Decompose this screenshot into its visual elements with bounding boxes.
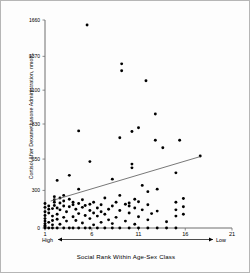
- data-point: [103, 227, 106, 230]
- data-point: [174, 171, 177, 174]
- data-point: [84, 204, 87, 207]
- data-point: [62, 194, 65, 197]
- data-points: [44, 24, 202, 230]
- data-point: [96, 207, 99, 210]
- axes: [45, 20, 232, 228]
- data-point: [115, 201, 118, 204]
- data-point: [77, 129, 80, 132]
- data-point: [84, 227, 87, 230]
- data-point: [72, 215, 75, 218]
- data-point: [141, 208, 144, 211]
- data-point: [68, 205, 71, 208]
- data-point: [133, 223, 136, 226]
- data-point: [62, 227, 65, 230]
- data-point: [68, 227, 71, 230]
- data-point: [146, 218, 149, 221]
- data-point: [74, 208, 77, 211]
- data-point: [56, 179, 59, 182]
- data-point: [96, 227, 99, 230]
- data-point: [182, 197, 185, 200]
- data-point: [137, 227, 140, 230]
- data-point: [62, 216, 65, 219]
- data-point: [88, 217, 91, 220]
- y-tick-label: 300: [14, 187, 40, 193]
- data-point: [47, 227, 50, 230]
- data-point: [156, 188, 159, 191]
- data-point: [56, 207, 59, 210]
- scatter-chart: Cortisol After Dexamethasone Administrat…: [1, 1, 250, 273]
- y-tick-label: 1370: [14, 53, 40, 59]
- data-point: [81, 222, 84, 225]
- data-point: [146, 227, 149, 230]
- figure-page: Cortisol After Dexamethasone Administrat…: [0, 0, 250, 273]
- data-point: [182, 205, 185, 208]
- data-point: [51, 223, 54, 226]
- data-point: [100, 221, 103, 224]
- data-point: [137, 215, 140, 218]
- data-point: [47, 205, 50, 208]
- data-point: [156, 210, 159, 213]
- data-point: [174, 208, 177, 211]
- data-point: [53, 201, 56, 204]
- data-point: [154, 113, 157, 116]
- data-point: [88, 203, 91, 206]
- y-axis-title: Cortisol After Dexamethasone Administrat…: [28, 16, 34, 216]
- data-point: [44, 206, 47, 209]
- data-point: [59, 223, 62, 226]
- data-point: [56, 218, 59, 221]
- data-point: [111, 205, 114, 208]
- axis-endcap-low: Low: [216, 237, 226, 243]
- data-point: [131, 163, 134, 166]
- data-point: [88, 160, 91, 163]
- data-point: [120, 62, 123, 65]
- x-tick-label: 6: [82, 231, 102, 237]
- data-point: [77, 202, 80, 205]
- data-point: [103, 196, 106, 199]
- data-point: [111, 178, 114, 181]
- data-point: [174, 201, 177, 204]
- data-point: [150, 212, 153, 215]
- data-point: [59, 208, 62, 211]
- data-point: [92, 212, 95, 215]
- data-point: [86, 24, 89, 27]
- data-point: [44, 220, 47, 223]
- data-point: [131, 166, 134, 169]
- data-point: [74, 219, 77, 222]
- data-point: [68, 174, 71, 177]
- data-point: [77, 188, 80, 191]
- data-point: [47, 208, 50, 211]
- data-point: [77, 212, 80, 215]
- data-point: [47, 221, 50, 224]
- data-point: [53, 195, 56, 198]
- y-tick-label: 550: [14, 156, 40, 162]
- data-point: [182, 213, 185, 216]
- data-point: [44, 202, 47, 205]
- x-tick-label: 1: [35, 231, 55, 237]
- data-point: [165, 227, 168, 230]
- data-point: [111, 222, 114, 225]
- data-point: [56, 213, 59, 216]
- data-point: [133, 198, 136, 201]
- data-point: [92, 201, 95, 204]
- data-point: [124, 203, 127, 206]
- data-point: [133, 207, 136, 210]
- data-point: [128, 201, 131, 204]
- data-point: [146, 203, 149, 206]
- data-point: [96, 215, 99, 218]
- data-point: [107, 218, 110, 221]
- data-point: [145, 79, 148, 82]
- data-point: [44, 214, 47, 217]
- data-point: [44, 217, 47, 220]
- data-point: [47, 212, 50, 215]
- trendline: [51, 157, 201, 201]
- data-point: [161, 146, 164, 149]
- x-axis-title: Social Rank Within Age-Sex Class: [1, 253, 250, 260]
- data-point: [65, 210, 68, 213]
- y-tick-label: 830: [14, 121, 40, 127]
- data-point: [72, 227, 75, 230]
- axis-endcap-high: High: [42, 237, 53, 243]
- data-point: [118, 194, 121, 197]
- x-tick-label: 16: [175, 231, 195, 237]
- data-point: [65, 220, 68, 223]
- data-point: [44, 222, 47, 225]
